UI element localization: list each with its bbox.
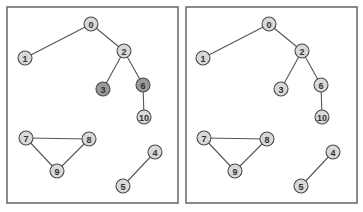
node-label: 6	[318, 81, 323, 91]
left-graph-panel: 012361078945	[7, 7, 178, 203]
node-label: 0	[88, 20, 93, 30]
node-label: 2	[121, 47, 126, 57]
node-label: 0	[266, 20, 271, 30]
node-label: 7	[23, 134, 28, 144]
node-3: 3	[96, 82, 110, 96]
node-label: 8	[86, 135, 91, 145]
node-0: 0	[262, 17, 276, 31]
node-label: 8	[264, 135, 269, 145]
node-label: 7	[201, 134, 206, 144]
node-2: 2	[295, 44, 309, 58]
node-5: 5	[294, 179, 308, 193]
node-label: 10	[139, 113, 149, 123]
node-label: 5	[120, 182, 125, 192]
node-label: 1	[22, 54, 27, 64]
node-10: 10	[315, 110, 329, 124]
node-8: 8	[82, 132, 96, 146]
node-9: 9	[50, 164, 64, 178]
node-6: 6	[136, 78, 150, 92]
node-label: 6	[140, 81, 145, 91]
node-label: 5	[298, 182, 303, 192]
node-7: 7	[19, 131, 33, 145]
node-0: 0	[84, 17, 98, 31]
left-panel-border	[7, 7, 178, 203]
node-label: 3	[278, 85, 283, 95]
node-3: 3	[274, 82, 288, 96]
node-10: 10	[137, 110, 151, 124]
node-9: 9	[228, 164, 242, 178]
node-label: 9	[232, 167, 237, 177]
node-label: 10	[317, 113, 327, 123]
node-label: 4	[152, 148, 157, 158]
node-label: 1	[200, 54, 205, 64]
node-7: 7	[197, 131, 211, 145]
node-4: 4	[326, 145, 340, 159]
node-label: 9	[54, 167, 59, 177]
node-label: 2	[299, 47, 304, 57]
graph-diagram: 012361078945 012361078945	[0, 0, 363, 212]
node-5: 5	[116, 179, 130, 193]
node-label: 4	[330, 148, 335, 158]
node-8: 8	[260, 132, 274, 146]
node-1: 1	[196, 51, 210, 65]
node-2: 2	[117, 44, 131, 58]
node-1: 1	[18, 51, 32, 65]
node-label: 3	[100, 85, 105, 95]
right-panel-border	[186, 7, 357, 203]
node-4: 4	[148, 145, 162, 159]
right-graph-panel: 012361078945	[186, 7, 357, 203]
node-6: 6	[314, 78, 328, 92]
